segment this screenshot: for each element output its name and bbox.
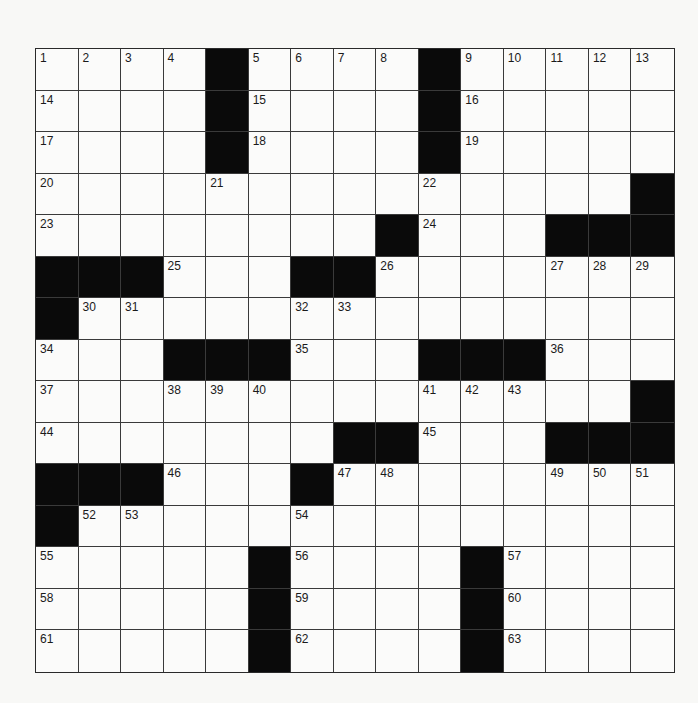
- crossword-cell[interactable]: 29: [631, 257, 674, 299]
- crossword-cell[interactable]: 26: [376, 257, 419, 299]
- crossword-cell[interactable]: [164, 630, 207, 672]
- crossword-cell[interactable]: [589, 506, 632, 548]
- crossword-cell[interactable]: [334, 547, 377, 589]
- crossword-cell[interactable]: 56: [291, 547, 334, 589]
- crossword-cell[interactable]: [164, 174, 207, 216]
- crossword-cell[interactable]: [376, 381, 419, 423]
- crossword-cell[interactable]: [504, 91, 547, 133]
- crossword-cell[interactable]: [631, 132, 674, 174]
- crossword-cell[interactable]: 42: [461, 381, 504, 423]
- crossword-cell[interactable]: [631, 630, 674, 672]
- crossword-cell[interactable]: [546, 547, 589, 589]
- crossword-cell[interactable]: [291, 132, 334, 174]
- crossword-cell[interactable]: 13: [631, 49, 674, 91]
- crossword-cell[interactable]: 62: [291, 630, 334, 672]
- crossword-cell[interactable]: [249, 506, 292, 548]
- crossword-cell[interactable]: 7: [334, 49, 377, 91]
- crossword-cell[interactable]: [249, 298, 292, 340]
- crossword-cell[interactable]: [79, 340, 122, 382]
- crossword-cell[interactable]: [589, 298, 632, 340]
- crossword-cell[interactable]: [461, 215, 504, 257]
- crossword-cell[interactable]: 59: [291, 589, 334, 631]
- crossword-cell[interactable]: 34: [36, 340, 79, 382]
- crossword-cell[interactable]: 33: [334, 298, 377, 340]
- crossword-cell[interactable]: 31: [121, 298, 164, 340]
- crossword-cell[interactable]: [504, 464, 547, 506]
- crossword-cell[interactable]: [376, 506, 419, 548]
- crossword-cell[interactable]: 4: [164, 49, 207, 91]
- crossword-cell[interactable]: [334, 589, 377, 631]
- crossword-cell[interactable]: [164, 132, 207, 174]
- crossword-cell[interactable]: 44: [36, 423, 79, 465]
- crossword-cell[interactable]: [121, 340, 164, 382]
- crossword-cell[interactable]: [376, 630, 419, 672]
- crossword-cell[interactable]: [376, 91, 419, 133]
- crossword-cell[interactable]: 19: [461, 132, 504, 174]
- crossword-cell[interactable]: [79, 381, 122, 423]
- crossword-cell[interactable]: [79, 215, 122, 257]
- crossword-cell[interactable]: [419, 506, 462, 548]
- crossword-cell[interactable]: [79, 91, 122, 133]
- crossword-cell[interactable]: [589, 630, 632, 672]
- crossword-cell[interactable]: [504, 298, 547, 340]
- crossword-cell[interactable]: 37: [36, 381, 79, 423]
- crossword-cell[interactable]: 46: [164, 464, 207, 506]
- crossword-cell[interactable]: [461, 257, 504, 299]
- crossword-cell[interactable]: [589, 340, 632, 382]
- crossword-cell[interactable]: [291, 174, 334, 216]
- crossword-cell[interactable]: [206, 547, 249, 589]
- crossword-cell[interactable]: [376, 132, 419, 174]
- crossword-cell[interactable]: [546, 132, 589, 174]
- crossword-cell[interactable]: 9: [461, 49, 504, 91]
- crossword-cell[interactable]: 6: [291, 49, 334, 91]
- crossword-cell[interactable]: [546, 174, 589, 216]
- crossword-cell[interactable]: 32: [291, 298, 334, 340]
- crossword-cell[interactable]: [206, 298, 249, 340]
- crossword-cell[interactable]: [376, 340, 419, 382]
- crossword-cell[interactable]: 2: [79, 49, 122, 91]
- crossword-cell[interactable]: [79, 174, 122, 216]
- crossword-cell[interactable]: 21: [206, 174, 249, 216]
- crossword-cell[interactable]: 23: [36, 215, 79, 257]
- crossword-cell[interactable]: 39: [206, 381, 249, 423]
- crossword-cell[interactable]: 30: [79, 298, 122, 340]
- crossword-cell[interactable]: [334, 340, 377, 382]
- crossword-cell[interactable]: [334, 630, 377, 672]
- crossword-cell[interactable]: [164, 215, 207, 257]
- crossword-cell[interactable]: [334, 381, 377, 423]
- crossword-cell[interactable]: [121, 215, 164, 257]
- crossword-cell[interactable]: [206, 506, 249, 548]
- crossword-cell[interactable]: 1: [36, 49, 79, 91]
- crossword-cell[interactable]: [461, 464, 504, 506]
- crossword-cell[interactable]: [206, 589, 249, 631]
- crossword-cell[interactable]: 16: [461, 91, 504, 133]
- crossword-cell[interactable]: 22: [419, 174, 462, 216]
- crossword-cell[interactable]: [546, 630, 589, 672]
- crossword-cell[interactable]: [334, 91, 377, 133]
- crossword-cell[interactable]: 52: [79, 506, 122, 548]
- crossword-cell[interactable]: [291, 215, 334, 257]
- crossword-cell[interactable]: [121, 589, 164, 631]
- crossword-cell[interactable]: 12: [589, 49, 632, 91]
- crossword-cell[interactable]: [461, 174, 504, 216]
- crossword-cell[interactable]: [631, 589, 674, 631]
- crossword-cell[interactable]: 57: [504, 547, 547, 589]
- crossword-cell[interactable]: 36: [546, 340, 589, 382]
- crossword-cell[interactable]: [631, 340, 674, 382]
- crossword-cell[interactable]: [334, 506, 377, 548]
- crossword-cell[interactable]: [206, 464, 249, 506]
- crossword-cell[interactable]: 14: [36, 91, 79, 133]
- crossword-cell[interactable]: [79, 547, 122, 589]
- crossword-cell[interactable]: 43: [504, 381, 547, 423]
- crossword-cell[interactable]: [631, 547, 674, 589]
- crossword-cell[interactable]: [164, 298, 207, 340]
- crossword-cell[interactable]: 48: [376, 464, 419, 506]
- crossword-cell[interactable]: [546, 589, 589, 631]
- crossword-cell[interactable]: [461, 506, 504, 548]
- crossword-cell[interactable]: [121, 91, 164, 133]
- crossword-cell[interactable]: 53: [121, 506, 164, 548]
- crossword-cell[interactable]: [589, 381, 632, 423]
- crossword-cell[interactable]: [546, 298, 589, 340]
- crossword-cell[interactable]: 24: [419, 215, 462, 257]
- crossword-cell[interactable]: [546, 506, 589, 548]
